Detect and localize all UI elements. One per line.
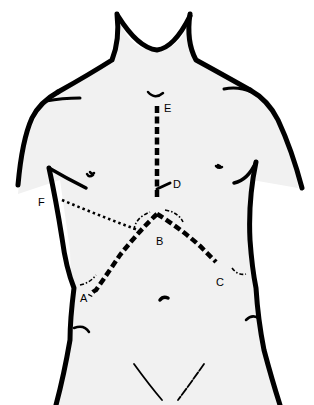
- label-D: D: [173, 178, 181, 190]
- label-C: C: [216, 276, 224, 288]
- label-F: F: [38, 196, 45, 208]
- torso-fill: [18, 14, 298, 405]
- torso-diagram: E D F B C A: [0, 0, 314, 405]
- label-B: B: [156, 235, 163, 247]
- label-A: A: [80, 292, 88, 304]
- right-nipple: [216, 165, 222, 168]
- label-E: E: [164, 102, 171, 114]
